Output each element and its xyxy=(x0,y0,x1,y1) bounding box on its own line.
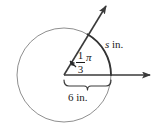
radius-length-label: 6 in. xyxy=(68,92,88,103)
angle-fraction: 1 3 xyxy=(76,50,85,75)
pi-symbol: π xyxy=(86,52,92,63)
circle-sector-figure: s in. 6 in. 1 3 π xyxy=(0,0,159,137)
radius-brace xyxy=(64,80,111,90)
arc-length-unit-text: in. xyxy=(112,38,123,50)
angle-numerator: 1 xyxy=(77,50,85,62)
central-angle-label: 1 3 π xyxy=(76,50,92,75)
arc-length-label: s in. xyxy=(105,39,123,50)
angle-denominator: 3 xyxy=(77,63,85,75)
radius-unit: in. xyxy=(76,91,87,103)
